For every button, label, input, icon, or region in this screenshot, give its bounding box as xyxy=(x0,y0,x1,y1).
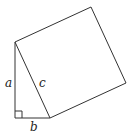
hypotenuse-square xyxy=(15,7,126,118)
right-angle-marker xyxy=(15,111,22,118)
pythagorean-diagram: a b c xyxy=(0,0,131,136)
label-c: c xyxy=(39,76,46,90)
label-b: b xyxy=(30,120,38,134)
label-a: a xyxy=(5,76,12,90)
